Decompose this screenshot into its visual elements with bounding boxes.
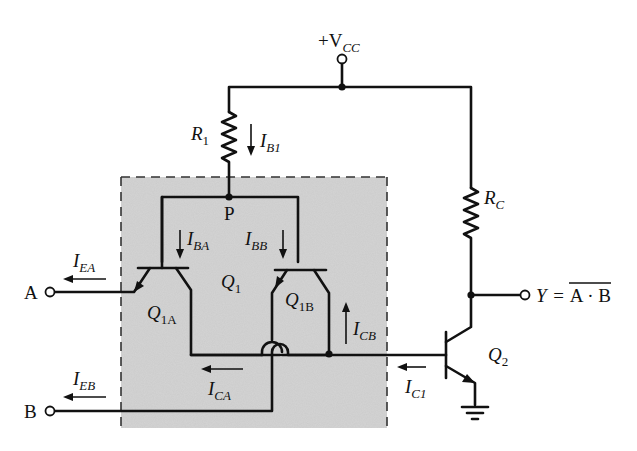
ib1-current-arrow: IB1 (251, 124, 281, 155)
r1-label: R1 (190, 123, 209, 148)
svg-text:IEB: IEB (72, 368, 95, 393)
vcc-label: +VCC (318, 30, 360, 55)
input-b-terminal[interactable]: B (24, 401, 55, 422)
rc-label: RC (483, 187, 505, 212)
node-p-label: P (224, 203, 235, 224)
svg-text:IC1: IC1 (404, 376, 427, 401)
ground-icon (462, 407, 488, 419)
svg-text:IEA: IEA (72, 250, 95, 275)
input-a-terminal[interactable]: A (24, 282, 55, 303)
vcc-terminal: +VCC (318, 30, 360, 91)
rc-resistor: RC (464, 187, 505, 295)
ic1-current-arrow: IC1 (402, 367, 427, 401)
output-expression: Y = A · B (536, 285, 611, 306)
tTL-nand-circuit-diagram: +VCC R1 IB1 P Q1A A IEA IBA Q1 (0, 0, 637, 451)
svg-text:IB1: IB1 (259, 130, 281, 155)
output-y-terminal[interactable]: Y = A · B (467, 283, 611, 306)
q2-transistor: Q2 (446, 295, 508, 405)
iea-current-arrow: IEA (68, 250, 106, 279)
q2-label: Q2 (488, 344, 508, 369)
input-b-label: B (24, 401, 37, 422)
ieb-current-arrow: IEB (68, 368, 106, 397)
input-a-label: A (24, 282, 38, 303)
